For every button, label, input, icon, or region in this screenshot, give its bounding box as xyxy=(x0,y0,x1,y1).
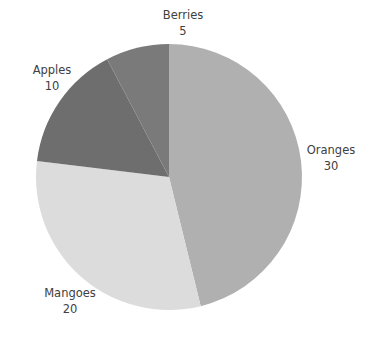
pie-label-berries-name: Berries xyxy=(0,8,366,24)
pie-label-apples-name: Apples xyxy=(6,63,98,79)
pie-label-oranges-name: Oranges xyxy=(296,143,366,159)
pie-label-oranges-value: 30 xyxy=(296,159,366,175)
pie-chart: Berries 5 Apples 10 Oranges 30 Mangoes 2… xyxy=(0,0,366,339)
pie-label-apples-value: 10 xyxy=(6,79,98,95)
pie-label-mangoes-name: Mangoes xyxy=(18,286,122,302)
pie-label-mangoes-value: 20 xyxy=(18,302,122,318)
pie-label-apples: Apples 10 xyxy=(6,63,98,94)
pie-label-oranges: Oranges 30 xyxy=(296,143,366,174)
pie-label-berries-value: 5 xyxy=(0,24,366,40)
pie-label-mangoes: Mangoes 20 xyxy=(18,286,122,317)
pie-label-berries: Berries 5 xyxy=(0,8,366,39)
